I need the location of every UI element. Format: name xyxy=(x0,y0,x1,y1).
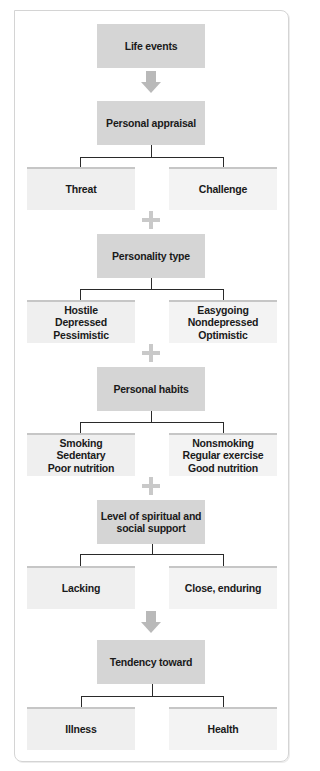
box-easygoing-nondepressed-optimistic: Easygoing Nondepressed Optimistic xyxy=(169,300,277,343)
box-hostile-depressed-pessimistic: Hostile Depressed Pessimistic xyxy=(27,300,135,343)
box-spiritual-social-support: Level of spiritual and social support xyxy=(97,500,205,544)
box-challenge: Challenge xyxy=(169,167,277,210)
connector-line xyxy=(80,422,224,423)
connector-line xyxy=(80,289,224,290)
connector-line xyxy=(223,554,224,566)
box-tendency-toward: Tendency toward xyxy=(97,640,205,684)
box-personal-appraisal: Personal appraisal xyxy=(97,101,205,145)
box-lacking: Lacking xyxy=(27,566,135,609)
down-arrow-icon xyxy=(141,71,161,93)
box-life-events: Life events xyxy=(97,24,205,68)
box-health: Health xyxy=(169,707,277,750)
connector-line xyxy=(152,684,153,696)
connector-line xyxy=(80,554,224,555)
connector-line xyxy=(80,554,81,566)
box-nonsmoking-exercise-good-nutrition: Nonsmoking Regular exercise Good nutriti… xyxy=(169,433,277,476)
box-personal-habits: Personal habits xyxy=(97,367,205,411)
connector-line xyxy=(81,696,224,697)
box-personality-type: Personality type xyxy=(97,234,205,278)
connector-line xyxy=(80,157,224,158)
plus-icon xyxy=(142,211,160,229)
box-illness: Illness xyxy=(27,707,135,750)
plus-icon xyxy=(142,477,160,495)
box-close-enduring: Close, enduring xyxy=(169,566,277,609)
box-smoking-sedentary-poor-nutrition: Smoking Sedentary Poor nutrition xyxy=(27,433,135,476)
plus-icon xyxy=(142,344,160,362)
box-threat: Threat xyxy=(27,167,135,210)
down-arrow-icon xyxy=(141,611,161,633)
